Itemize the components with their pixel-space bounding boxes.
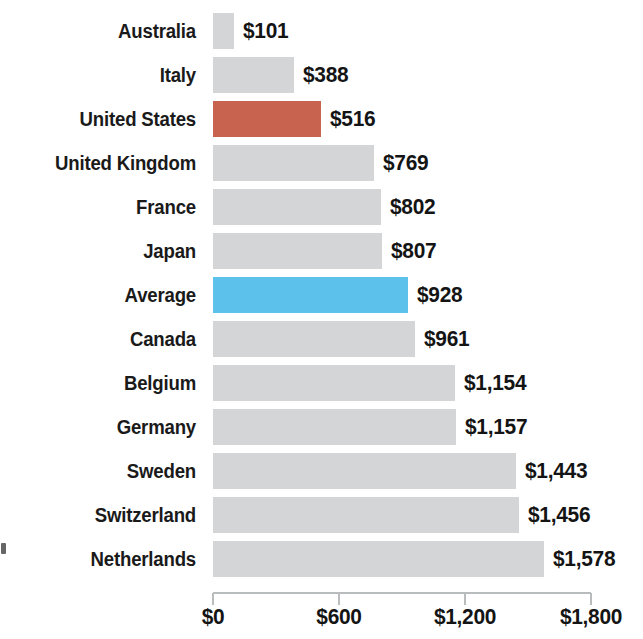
bar-row: Belgium$1,154: [0, 365, 643, 401]
bar-row: Japan$807: [0, 233, 643, 269]
bar-chart: Australia$101Italy$388United States$516U…: [0, 0, 643, 639]
bar-value-label: $1,578: [553, 541, 615, 577]
bar-row: Average$928: [0, 277, 643, 313]
bar-row: Canada$961: [0, 321, 643, 357]
bar-row: Netherlands$1,578: [0, 541, 643, 577]
bar-germany: [213, 409, 456, 445]
bar-france: [213, 189, 381, 225]
bar-value-label: $1,157: [465, 409, 527, 445]
bar-row: Sweden$1,443: [0, 453, 643, 489]
bar-value-label: $802: [390, 189, 435, 225]
bar-row: Australia$101: [0, 13, 643, 49]
bar-japan: [213, 233, 382, 269]
bar-value-label: $101: [243, 13, 288, 49]
category-label: Australia: [14, 13, 196, 49]
bar-value-label: $1,154: [464, 365, 526, 401]
axis-tick-label: $600: [316, 604, 361, 630]
bar-switzerland: [213, 497, 519, 533]
category-label: Japan: [14, 233, 196, 269]
bar-value-label: $928: [417, 277, 462, 313]
bar-average: [213, 277, 408, 313]
category-label: France: [14, 189, 196, 225]
category-label: Italy: [14, 57, 196, 93]
bar-value-label: $1,456: [528, 497, 590, 533]
bar-netherlands: [213, 541, 544, 577]
category-label: Netherlands: [14, 541, 196, 577]
category-label: United Kingdom: [14, 145, 196, 181]
category-label: Germany: [14, 409, 196, 445]
axis-tick-label: $1,200: [434, 604, 496, 630]
bar-value-label: $961: [424, 321, 469, 357]
category-label: United States: [14, 101, 196, 137]
bar-value-label: $516: [330, 101, 375, 137]
bar-value-label: $807: [391, 233, 436, 269]
bar-australia: [213, 13, 234, 49]
bar-value-label: $769: [383, 145, 428, 181]
bar-canada: [213, 321, 415, 357]
category-label: Sweden: [14, 453, 196, 489]
bar-united-states: [213, 101, 321, 137]
bar-sweden: [213, 453, 516, 489]
bar-value-label: $1,443: [525, 453, 587, 489]
bar-row: Italy$388: [0, 57, 643, 93]
bar-row: United States$516: [0, 101, 643, 137]
bar-row: France$802: [0, 189, 643, 225]
bar-row: Switzerland$1,456: [0, 497, 643, 533]
bar-row: United Kingdom$769: [0, 145, 643, 181]
bar-united-kingdom: [213, 145, 374, 181]
bar-belgium: [213, 365, 455, 401]
category-label: Belgium: [14, 365, 196, 401]
category-label: Canada: [14, 321, 196, 357]
axis-tick-label: $1,800: [560, 604, 622, 630]
category-label: Average: [14, 277, 196, 313]
axis-tick-label: $0: [202, 604, 225, 630]
bar-italy: [213, 57, 294, 93]
scan-artifact-mark: [1, 543, 6, 554]
bar-value-label: $388: [303, 57, 348, 93]
category-label: Switzerland: [14, 497, 196, 533]
bar-row: Germany$1,157: [0, 409, 643, 445]
axis-line-and-ticks: [213, 593, 591, 605]
